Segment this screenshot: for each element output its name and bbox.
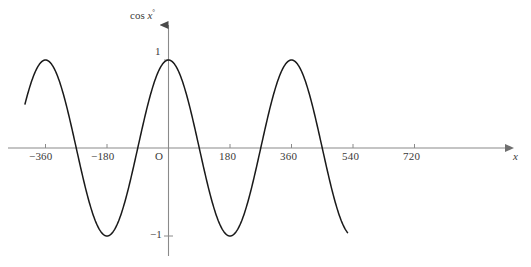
x-tick-label-720: 720 <box>403 150 420 162</box>
x-tick-label--360: −360 <box>29 150 53 162</box>
x-axis-ticks <box>46 144 415 148</box>
x-tick-label-540: 540 <box>342 150 359 162</box>
cosine-plot-svg <box>0 0 531 267</box>
degree-icon: ° <box>152 8 155 16</box>
y-axis-title: cos x° <box>130 8 155 21</box>
y-axis-title-prefix: cos <box>130 9 145 21</box>
origin-label: O <box>155 150 163 162</box>
x-tick-label-180: 180 <box>219 150 236 162</box>
y-tick-label--1: −1 <box>150 228 162 240</box>
x-tick-label-360: 360 <box>280 150 297 162</box>
cosine-graph-figure: −360 −180 O 180 360 540 720 1 −1 cos x° … <box>0 0 531 267</box>
x-tick-label--180: −180 <box>91 150 115 162</box>
y-tick-label-1: 1 <box>155 45 161 57</box>
x-axis-title: x <box>513 150 518 162</box>
